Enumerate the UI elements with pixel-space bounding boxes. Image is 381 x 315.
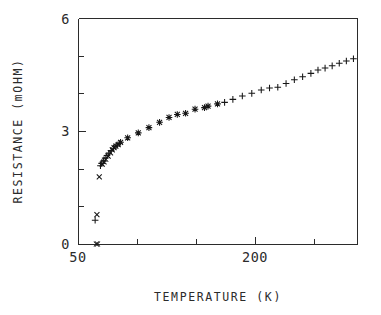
data-point-layer xyxy=(92,55,357,246)
data-point xyxy=(308,70,315,77)
axis-tick-labels: 6 3 0 50 200 xyxy=(61,11,268,265)
series-3 xyxy=(221,55,356,105)
x-tick-label-200: 200 xyxy=(242,249,268,265)
data-point xyxy=(117,139,124,146)
data-point xyxy=(329,63,336,70)
data-point xyxy=(97,174,102,179)
scatter-plot-canvas: 6 3 0 50 200 TEMPERATURE (K) RESISTANCE … xyxy=(0,0,381,315)
x-axis-title: TEMPERATURE (K) xyxy=(154,290,282,304)
data-point xyxy=(214,101,221,108)
data-point xyxy=(336,60,343,67)
data-point xyxy=(182,110,189,117)
data-point xyxy=(322,65,329,72)
data-point xyxy=(350,55,357,62)
data-point xyxy=(230,96,237,103)
data-point xyxy=(166,114,173,121)
data-point xyxy=(248,90,255,97)
data-point xyxy=(146,124,153,131)
series-1 xyxy=(92,140,123,223)
data-point xyxy=(291,76,298,83)
x-tick-label-50: 50 xyxy=(69,249,86,265)
data-point xyxy=(192,106,199,113)
y-tick-label-3: 3 xyxy=(61,123,70,139)
data-point xyxy=(205,103,212,110)
data-point xyxy=(343,58,350,65)
data-point xyxy=(135,130,142,137)
resistance-temperature-figure: 6 3 0 50 200 TEMPERATURE (K) RESISTANCE … xyxy=(0,0,381,315)
series-2 xyxy=(117,101,221,146)
data-point xyxy=(156,119,163,126)
plot-axes-frame xyxy=(79,19,358,245)
data-point xyxy=(94,212,99,217)
data-point xyxy=(221,99,228,106)
data-point xyxy=(274,84,281,91)
data-point xyxy=(92,217,99,224)
data-point xyxy=(239,93,246,100)
y-axis-title: RESISTANCE (mOHM) xyxy=(11,59,25,204)
data-point xyxy=(299,73,306,80)
data-point xyxy=(258,87,265,94)
axis-tick-marks xyxy=(79,19,315,245)
y-tick-label-6: 6 xyxy=(61,11,70,27)
data-point xyxy=(266,85,273,92)
data-point xyxy=(124,134,131,141)
data-point xyxy=(174,111,181,118)
data-point xyxy=(283,80,290,87)
data-point xyxy=(315,67,322,74)
